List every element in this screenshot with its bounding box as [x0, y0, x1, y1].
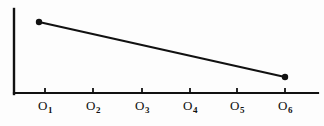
- tick-label-subscript: 1: [48, 105, 53, 115]
- tick-label-subscript: 6: [288, 105, 293, 115]
- x-tick-label-O4: O4: [183, 99, 197, 112]
- chart-figure: O1O2O3O4O5O6: [0, 0, 324, 126]
- tick-label-base: O: [86, 98, 95, 113]
- series-group: [36, 19, 288, 80]
- data-line-segment: [39, 22, 285, 77]
- data-point-O6: [282, 74, 288, 80]
- tick-label-base: O: [278, 98, 287, 113]
- tick-label-subscript: 4: [193, 105, 198, 115]
- tick-label-subscript: 5: [240, 105, 245, 115]
- tick-label-base: O: [38, 98, 47, 113]
- tick-label-base: O: [183, 98, 192, 113]
- x-tick-label-O3: O3: [135, 99, 149, 112]
- x-tick-label-O2: O2: [86, 99, 100, 112]
- x-tick-label-O1: O1: [38, 99, 52, 112]
- x-tick-label-O6: O6: [278, 99, 292, 112]
- tick-label-subscript: 2: [96, 105, 101, 115]
- tick-label-subscript: 3: [145, 105, 150, 115]
- tick-label-base: O: [230, 98, 239, 113]
- data-point-O1: [36, 19, 42, 25]
- tick-label-base: O: [135, 98, 144, 113]
- x-tick-label-O5: O5: [230, 99, 244, 112]
